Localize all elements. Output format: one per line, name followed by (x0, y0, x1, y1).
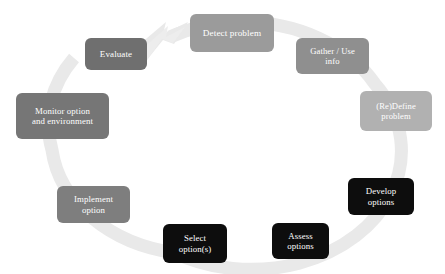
step-monitor-option-and-environment[interactable]: Monitor option and environment (16, 93, 109, 139)
step-develop-options[interactable]: Develop options (348, 178, 414, 215)
step-select-options[interactable]: Select option(s) (163, 224, 227, 263)
step-implement-option[interactable]: Implement option (57, 186, 130, 223)
cycle-diagram: Detect problem Gather / Use info (Re)Def… (0, 0, 445, 274)
step-evaluate[interactable]: Evaluate (85, 38, 147, 70)
step-redefine-problem[interactable]: (Re)Define problem (360, 91, 432, 131)
step-detect-problem[interactable]: Detect problem (190, 14, 274, 52)
step-gather-use-info[interactable]: Gather / Use info (296, 38, 369, 74)
step-assess-options[interactable]: Assess options (272, 223, 329, 259)
